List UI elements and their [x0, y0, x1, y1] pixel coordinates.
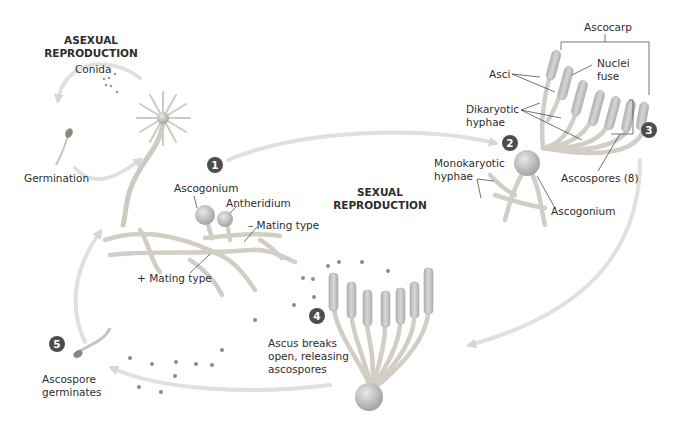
label-monokaryotic-hyphae: Monokaryotic hyphae: [434, 157, 505, 183]
ascogonium-cell-1: [195, 205, 215, 225]
label-minus-mating-type: – Mating type: [248, 219, 319, 232]
label-line: hyphae: [434, 170, 505, 183]
label-line: Ascus breaks: [268, 337, 349, 350]
label-ascogonium-step2: Ascogonium: [551, 205, 615, 218]
label-dikaryotic-hyphae: Dikaryotic hyphae: [466, 103, 519, 129]
step-badge-4: 4: [309, 308, 325, 324]
heading-line: REPRODUCTION: [36, 47, 146, 60]
heading-line: ASEXUAL: [36, 34, 146, 47]
arrow-step1-to-step2: [228, 133, 495, 160]
label-ascospores-8: Ascospores (8): [561, 172, 639, 185]
germinating-ascospore: [72, 328, 110, 360]
label-line: open, releasing: [268, 350, 349, 363]
label-line: fuse: [597, 70, 630, 83]
step-badge-5: 5: [49, 336, 65, 352]
label-nuclei-fuse: Nuclei fuse: [597, 57, 630, 83]
label-ascospore-germinates: Ascospore germinates: [42, 373, 102, 399]
label-line: ascospores: [268, 363, 349, 376]
label-line: Ascospore: [42, 373, 102, 386]
label-line: hyphae: [466, 116, 519, 129]
sexual-reproduction-heading: SEXUAL REPRODUCTION: [330, 186, 430, 212]
germinating-conidium: [56, 127, 74, 165]
label-line: Dikaryotic: [466, 103, 519, 116]
arrow-step5-to-step1: [76, 232, 100, 342]
asexual-reproduction-heading: ASEXUAL REPRODUCTION: [36, 34, 146, 60]
arrow-step3-to-step4: [470, 160, 640, 345]
label-plus-mating-type: + Mating type: [137, 272, 212, 285]
label-ascocarp: Ascocarp: [584, 21, 632, 34]
conidiophore: [123, 92, 190, 225]
label-line: Monokaryotic: [434, 157, 505, 170]
label-line: Nuclei: [597, 57, 630, 70]
heading-line: SEXUAL: [330, 186, 430, 199]
label-asci: Asci: [489, 68, 510, 81]
antheridium-cell: [217, 211, 233, 227]
label-antheridium: Antheridium: [226, 197, 291, 210]
step-badge-3: 3: [641, 122, 657, 138]
label-ascus-breaks-open: Ascus breaks open, releasing ascospores: [268, 337, 349, 376]
ascogonium-cell-2: [514, 150, 540, 176]
step-badge-1: 1: [207, 157, 223, 173]
heading-line: REPRODUCTION: [330, 199, 430, 212]
label-ascogonium-step1: Ascogonium: [174, 182, 238, 195]
ascomycete-life-cycle-diagram: ASEXUAL REPRODUCTION SEXUAL REPRODUCTION…: [0, 0, 679, 429]
step-badge-2: 2: [502, 135, 518, 151]
label-germination: Germination: [24, 172, 89, 185]
label-line: germinates: [42, 386, 102, 399]
label-conida: Conida: [75, 63, 111, 76]
